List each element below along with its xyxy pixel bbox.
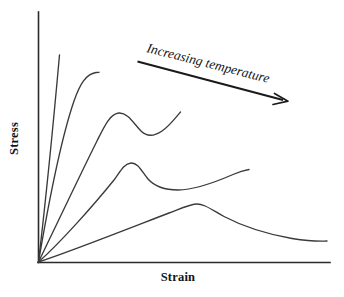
plot-canvas (0, 0, 344, 297)
y-axis-label: Stress (7, 116, 22, 162)
stress-strain-curve-2 (39, 72, 100, 262)
stress-strain-figure: Stress Strain Increasing temperature (0, 0, 344, 297)
stress-strain-curve-5 (39, 204, 328, 262)
stress-strain-curve-1 (39, 55, 60, 262)
x-axis-label: Strain (148, 270, 208, 285)
